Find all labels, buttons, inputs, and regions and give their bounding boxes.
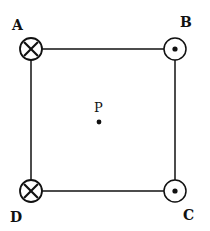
wire-c-out-of-page-icon [164,180,186,202]
wire-d-into-page-icon [20,180,42,202]
label-d: D [10,209,22,225]
square-wire-diagram: A B C D P [0,0,210,231]
label-b: B [180,14,192,30]
label-a: A [11,17,24,33]
label-p: P [94,100,103,115]
point-p-dot [97,120,102,125]
wire-a-into-page-icon [20,38,42,60]
wire-b-out-of-page-icon [164,38,186,60]
label-c: C [183,207,194,223]
